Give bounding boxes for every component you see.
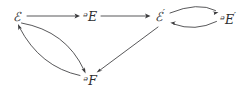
node-label-E: ℰ — [13, 8, 21, 24]
edge-t-to-e-curve — [20, 28, 81, 76]
diagram-canvas — [0, 0, 249, 95]
edge-eprime-to-t — [97, 27, 158, 73]
edge-sprime-to-eprime — [170, 21, 216, 27]
edge-sprime-to-eprime-curve — [174, 22, 217, 28]
edge-eprime-to-sprime-arrowhead — [212, 11, 218, 15]
node-label-T: ᵊF — [83, 72, 96, 88]
edge-e-to-t — [22, 23, 86, 74]
edge-e-to-t-curve — [22, 23, 85, 70]
edge-eprime-to-sprime — [170, 7, 219, 15]
edge-eprime-to-sprime-curve — [170, 7, 216, 13]
edge-eprime-to-t-line — [100, 27, 159, 71]
edge-s-to-eprime — [101, 14, 151, 19]
commutative-diagram: ℰ ᵊE ℰ′ ᵊE′ ᵊF — [0, 0, 249, 95]
node-label-E-prime: ℰ′ — [155, 8, 165, 24]
node-label-S-prime: ᵊE′ — [220, 11, 236, 27]
edge-t-to-e-arrowhead — [18, 24, 22, 30]
node-label-S: ᵊE — [83, 8, 97, 24]
edge-e-to-s — [27, 14, 80, 19]
